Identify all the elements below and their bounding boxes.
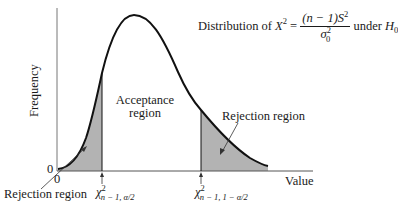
x-axis-label: Value — [285, 175, 313, 188]
formula-numerator: (n − 1)S2 — [300, 12, 350, 27]
chi-right-sub: n − 1, 1 − α/2 — [200, 192, 248, 202]
title-prefix: Distribution of — [198, 19, 275, 33]
equals-sign: = — [287, 19, 300, 33]
left-rejection-shade — [58, 73, 102, 171]
y-origin-label: 0 — [47, 163, 53, 176]
distribution-title: Distribution of X2 = (n − 1)S2σ20 under … — [198, 12, 398, 41]
stat-variable: X — [275, 19, 283, 33]
chi-left-sub: n − 1, α/2 — [101, 192, 135, 202]
y-axis-label: Frequency — [28, 61, 41, 121]
acceptance-region-label: Acceptance region — [115, 94, 175, 120]
hypothesis-subscript: 0 — [394, 25, 398, 35]
right-rejection-label: Rejection region — [222, 110, 305, 123]
sigma-subscript: 0 — [326, 34, 330, 44]
left-critical-arrowhead — [100, 172, 104, 177]
left-critical-value-label: χ2n − 1, α/2 — [96, 186, 135, 199]
numerator-superscript: 2 — [344, 9, 348, 19]
x-origin-label: 0 — [54, 173, 60, 186]
right-critical-arrowhead — [199, 172, 203, 177]
left-rejection-label: Rejection region — [4, 188, 87, 201]
right-critical-value-label: χ2n − 1, 1 − α/2 — [195, 186, 248, 199]
formula-fraction: (n − 1)S2σ20 — [300, 12, 350, 41]
title-suffix: under — [350, 19, 385, 33]
formula-denominator: σ20 — [300, 27, 350, 41]
numerator-text: (n − 1)S — [302, 11, 344, 25]
acceptance-line-2: region — [115, 107, 175, 120]
hypothesis-symbol: H — [385, 19, 394, 33]
